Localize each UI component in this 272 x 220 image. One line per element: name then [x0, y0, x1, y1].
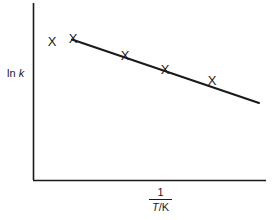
- denominator-unit-K: /K: [159, 201, 169, 213]
- data-point-4: X: [161, 62, 170, 77]
- y-axis-label-symbol: k: [19, 67, 25, 79]
- denominator-symbol-T: T: [152, 201, 159, 213]
- fraction-denominator: T/K: [149, 201, 172, 213]
- y-axis-label-prefix: ln: [7, 67, 16, 79]
- data-point-5: X: [208, 73, 217, 88]
- arrhenius-plot-figure: X X X X X ln k 1 T/K: [0, 0, 272, 220]
- fraction-numerator: 1: [149, 186, 172, 198]
- x-axis-label-fraction: 1 T/K: [149, 186, 172, 213]
- data-point-3: X: [121, 48, 130, 63]
- plot-canvas: X X X X X: [0, 0, 272, 220]
- x-axis-label: 1 T/K: [149, 186, 172, 214]
- data-point-1: X: [48, 34, 57, 49]
- fraction-bar: [149, 199, 172, 200]
- y-axis-label: ln k: [7, 68, 24, 80]
- data-point-2: X: [69, 31, 78, 46]
